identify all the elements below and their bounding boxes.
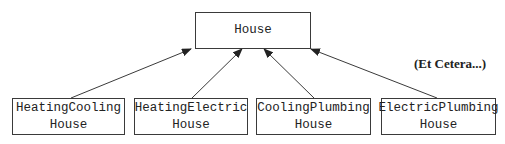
arrow-heatingelectric-to-house — [192, 49, 242, 98]
class-label-line1: CoolingPlumbing — [257, 100, 370, 117]
class-label-line1: HeatingElectric — [135, 100, 248, 117]
inheritance-diagram: House (Et Cetera...) HeatingCooling Hous… — [0, 0, 505, 144]
class-label-line1: ElectricPlumbing — [378, 100, 498, 117]
class-box-coolingplumbing-house: CoolingPlumbing House — [256, 98, 371, 135]
arrow-heatingcooling-to-house — [71, 49, 191, 98]
class-box-heatingelectric-house: HeatingElectric House — [134, 98, 248, 135]
class-label-line2: House — [50, 117, 88, 134]
class-box-heatingcooling-house: HeatingCooling House — [12, 98, 125, 135]
class-label: House — [234, 22, 272, 39]
class-box-house: House — [195, 12, 311, 49]
class-label-line2: House — [420, 117, 458, 134]
arrow-coolingplumbing-to-house — [264, 49, 314, 98]
class-box-electricplumbing-house: ElectricPlumbing House — [381, 98, 496, 135]
class-label-line2: House — [295, 117, 333, 134]
et-cetera-note: (Et Cetera...) — [414, 56, 486, 72]
class-label-line2: House — [172, 117, 210, 134]
class-label-line1: HeatingCooling — [16, 100, 121, 117]
